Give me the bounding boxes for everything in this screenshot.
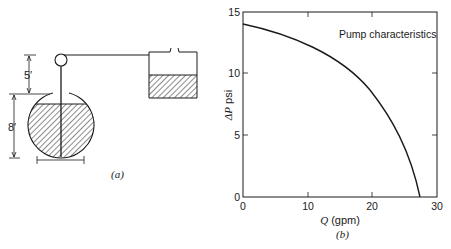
figure-b-caption: (b)	[336, 228, 349, 241]
x-tick-20: 20	[366, 200, 378, 212]
figure-b-chart: 0 5 10 15 0 10 20 30 Pump characteristic…	[222, 6, 443, 241]
pump-curve	[243, 24, 420, 197]
y-tick-5: 5	[234, 129, 240, 141]
x-axis-label: Q (gpm)	[320, 214, 360, 226]
y-tick-10: 10	[228, 67, 240, 79]
chart-annotation: Pump characteristics	[339, 28, 436, 40]
pulley-icon	[55, 54, 67, 66]
dimension-upper-label: 5′	[24, 69, 32, 81]
y-tick-15: 15	[228, 6, 240, 18]
y-axis-label: ΔP psi	[222, 90, 234, 121]
receiving-tank	[149, 48, 197, 98]
x-tick-0: 0	[240, 200, 246, 212]
figure-a-caption: (a)	[111, 168, 124, 181]
x-tick-30: 30	[431, 200, 443, 212]
figure-a-diagram: 5′ 8′ (a)	[8, 48, 197, 181]
figure-canvas: 5′ 8′ (a) 0 5 10 15 0 10 20 30 Pump char…	[0, 0, 451, 249]
x-tick-10: 10	[302, 200, 314, 212]
dimension-lower-label: 8′	[8, 121, 16, 133]
